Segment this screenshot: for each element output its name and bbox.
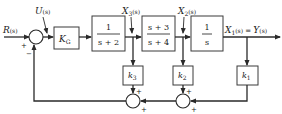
block2-numerator: s + 3 <box>148 23 169 32</box>
block3-numerator: 1 <box>204 23 209 32</box>
block-diagram: R(s) + − U(s) KG 1 s + 2 X3(s) s + 3 s +… <box>0 0 282 114</box>
control-signal-pointer <box>43 17 47 33</box>
block2-denominator: s + 4 <box>148 38 169 47</box>
x3-pointer <box>131 17 132 33</box>
x2-pointer <box>183 17 184 33</box>
main-feedback-path <box>34 45 126 101</box>
x3-label: X3(s) <box>121 6 140 17</box>
right-summer-top-plus: + <box>186 88 192 96</box>
right-summer-right-plus: + <box>191 106 197 114</box>
feedback-summing-junction-left <box>126 94 140 108</box>
main-summer-minus-sign: − <box>26 50 32 58</box>
main-summer-plus-sign: + <box>21 42 27 50</box>
feedback-summing-junction-right <box>176 94 190 108</box>
input-label: R(s) <box>2 25 18 35</box>
left-summer-top-plus: + <box>136 88 142 96</box>
block1-denominator: s + 2 <box>98 38 119 47</box>
left-summer-right-plus: + <box>141 106 147 114</box>
x2-label: X2(s) <box>177 6 196 17</box>
control-signal-label: U(s) <box>35 6 50 16</box>
block3-denominator: s <box>205 38 209 47</box>
k1-feedback-path <box>191 85 247 101</box>
output-label: X1(s) = Y(s) <box>224 25 267 36</box>
block1-numerator: 1 <box>106 23 111 32</box>
main-summing-junction <box>29 30 43 44</box>
